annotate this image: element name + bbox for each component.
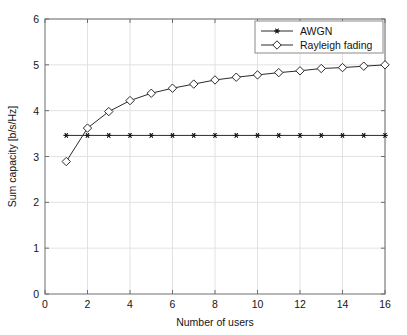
data-marker-diamond	[381, 61, 389, 69]
data-marker-star	[106, 133, 111, 138]
data-marker-diamond	[317, 64, 325, 72]
data-marker-diamond	[190, 80, 198, 88]
series-line-1	[66, 65, 385, 162]
x-tick-label: 6	[170, 298, 176, 310]
data-marker-diamond	[211, 76, 219, 84]
y-axis-title: Sum capacity [b/s/Hz]	[6, 106, 18, 208]
chart-figure: 01234560246810121416Number of usersSum c…	[0, 0, 407, 335]
y-tick-label: 0	[33, 288, 39, 300]
y-tick-label: 2	[33, 196, 39, 208]
x-axis-title: Number of users	[176, 316, 254, 328]
data-marker-star	[276, 133, 281, 138]
data-marker-diamond	[360, 62, 368, 70]
data-marker-diamond	[126, 96, 134, 104]
y-tick-label: 4	[33, 105, 39, 117]
data-marker-diamond	[232, 73, 240, 81]
data-marker-diamond	[253, 71, 261, 79]
data-marker-diamond	[275, 68, 283, 76]
legend-label-1: Rayleigh fading	[300, 39, 373, 51]
data-marker-star	[361, 133, 366, 138]
data-marker-diamond	[296, 67, 304, 75]
chart-canvas: 01234560246810121416Number of usersSum c…	[0, 0, 407, 335]
x-tick-label: 10	[252, 298, 264, 310]
x-tick-label: 2	[85, 298, 91, 310]
legend-label-0: AWGN	[300, 25, 332, 37]
data-marker-star	[191, 133, 196, 138]
x-tick-label: 4	[127, 298, 133, 310]
data-marker-star	[149, 133, 154, 138]
data-marker-diamond	[105, 107, 113, 115]
y-tick-label: 6	[33, 13, 39, 25]
x-tick-label: 14	[337, 298, 349, 310]
x-tick-label: 0	[42, 298, 48, 310]
data-marker-star	[64, 133, 69, 138]
data-marker-diamond	[83, 124, 91, 132]
y-tick-label: 5	[33, 59, 39, 71]
data-marker-star	[319, 133, 324, 138]
data-marker-diamond	[168, 84, 176, 92]
y-tick-label: 3	[33, 151, 39, 163]
data-marker-star	[234, 133, 239, 138]
data-marker-diamond	[62, 157, 70, 165]
x-tick-label: 8	[212, 298, 218, 310]
x-tick-label: 12	[294, 298, 306, 310]
y-tick-label: 1	[33, 242, 39, 254]
data-marker-diamond	[147, 89, 155, 97]
x-tick-label: 16	[379, 298, 391, 310]
